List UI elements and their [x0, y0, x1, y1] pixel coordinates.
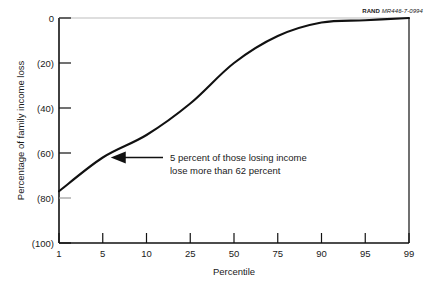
x-tick-group: 1 5 10 25 50 75 90 95 99	[56, 233, 414, 259]
y-tick-label: (20)	[37, 58, 54, 69]
chart-plot: 0 (20) (40) (60) (80) (100) 1 5 10 25 50…	[0, 0, 429, 288]
callout-arrow-head	[111, 152, 126, 164]
y-tick-label: (80)	[37, 193, 54, 204]
x-tick-label: 75	[272, 248, 283, 259]
y-tick-label: (100)	[32, 238, 54, 249]
x-tick-label: 25	[185, 248, 196, 259]
x-tick-label: 1	[56, 248, 61, 259]
five-percent-callout: 5 percent of those losing income lose mo…	[111, 152, 307, 176]
y-tick-label: (40)	[37, 103, 54, 114]
y-tick-group: 0 (20) (40) (60) (80) (100)	[32, 13, 71, 249]
callout-text-line2: lose more than 62 percent	[170, 165, 281, 176]
x-tick-label: 50	[229, 248, 240, 259]
x-tick-label: 10	[141, 248, 152, 259]
x-tick-label: 5	[100, 248, 105, 259]
y-tick-label: 0	[49, 13, 54, 24]
figure-container: RAND MR446-7-0994 Percentage of family i…	[0, 0, 429, 288]
y-tick-label: (60)	[37, 148, 54, 159]
x-axis-title: Percentile	[59, 266, 409, 278]
x-tick-label: 90	[316, 248, 327, 259]
x-tick-label: 99	[404, 248, 415, 259]
x-tick-label: 95	[360, 248, 371, 259]
callout-text-line1: 5 percent of those losing income	[170, 152, 307, 163]
